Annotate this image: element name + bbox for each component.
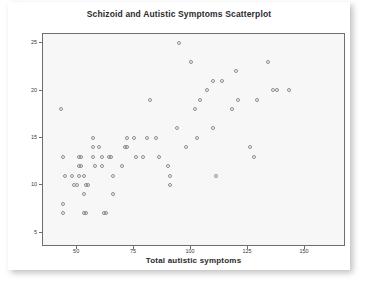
- plot-area: [42, 33, 345, 246]
- scatter-point: [141, 155, 145, 159]
- scatter-point: [59, 107, 63, 111]
- scatter-point: [220, 79, 224, 83]
- scatter-point: [61, 155, 65, 159]
- x-axis-label: Total autistic symptoms: [42, 256, 345, 265]
- scatter-point: [84, 211, 88, 215]
- scatter-point: [211, 126, 215, 130]
- scatter-point: [198, 98, 202, 102]
- scatter-point: [157, 155, 161, 159]
- scatter-point: [97, 145, 101, 149]
- scatter-point: [77, 174, 81, 178]
- scatter-point: [79, 164, 83, 168]
- y-tick-label: 15: [13, 134, 37, 140]
- y-tick-label: 5: [13, 229, 37, 235]
- scatter-point: [100, 164, 104, 168]
- scatter-point: [109, 155, 113, 159]
- scatter-point: [70, 174, 74, 178]
- scatter-point: [230, 107, 234, 111]
- scatter-point: [248, 145, 252, 149]
- scatter-point: [82, 174, 86, 178]
- scatter-point: [275, 88, 279, 92]
- scatter-point: [120, 164, 124, 168]
- scatter-point: [91, 136, 95, 140]
- scatter-point: [287, 88, 291, 92]
- scatter-point: [100, 155, 104, 159]
- scatter-point: [132, 136, 136, 140]
- scatter-point: [111, 192, 115, 196]
- scatter-point: [271, 88, 275, 92]
- scatter-point: [193, 107, 197, 111]
- page-background: Schizoid and Autistic Symptoms Scatterpl…: [0, 0, 366, 295]
- scatter-point: [63, 174, 67, 178]
- scatter-point: [184, 145, 188, 149]
- scatter-point: [75, 183, 79, 187]
- scatter-point: [104, 211, 108, 215]
- scatter-point: [168, 174, 172, 178]
- scatter-point: [177, 41, 181, 45]
- scatter-point: [125, 136, 129, 140]
- scatter-point: [125, 145, 129, 149]
- scatter-point: [214, 174, 218, 178]
- scatter-point: [234, 69, 238, 73]
- scatter-point: [205, 88, 209, 92]
- chart-card: Schizoid and Autistic Symptoms Scatterpl…: [8, 2, 350, 270]
- scatter-point: [189, 60, 193, 64]
- y-tick-label: 10: [13, 181, 37, 187]
- scatter-point: [91, 145, 95, 149]
- scatter-point: [195, 136, 199, 140]
- scatter-point: [91, 155, 95, 159]
- scatter-point: [148, 98, 152, 102]
- scatter-point: [252, 155, 256, 159]
- scatter-point: [145, 136, 149, 140]
- scatter-point: [175, 126, 179, 130]
- scatter-point: [61, 202, 65, 206]
- scatter-point: [168, 183, 172, 187]
- scatter-point: [255, 98, 259, 102]
- y-tick-label: 20: [13, 87, 37, 93]
- scatter-point: [82, 192, 86, 196]
- scatter-point: [166, 164, 170, 168]
- scatter-point: [79, 155, 83, 159]
- scatter-point: [236, 98, 240, 102]
- scatter-point: [93, 164, 97, 168]
- scatter-point: [266, 60, 270, 64]
- y-tick-label: 25: [13, 39, 37, 45]
- scatter-point: [61, 211, 65, 215]
- scatter-point: [86, 183, 90, 187]
- scatter-point: [211, 79, 215, 83]
- scatter-point: [134, 155, 138, 159]
- scatter-point: [154, 136, 158, 140]
- scatter-point: [111, 174, 115, 178]
- scatter-points-layer: [43, 34, 346, 247]
